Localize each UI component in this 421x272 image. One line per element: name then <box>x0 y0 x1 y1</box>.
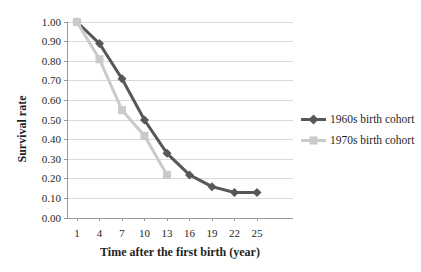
diamond-marker-icon <box>309 114 319 124</box>
series-line-0 <box>77 22 257 193</box>
y-tick-label: 0.90 <box>42 35 62 47</box>
legend-item-1970s-cohort: 1970s birth cohort <box>300 133 414 147</box>
legend-item-1960s-cohort: 1960s birth cohort <box>300 112 414 126</box>
square-marker-icon <box>310 136 318 144</box>
y-tick-label: 0.30 <box>42 153 62 165</box>
y-tick-label: 1.00 <box>42 16 62 28</box>
y-tick-label: 0.40 <box>42 133 62 145</box>
diamond-marker-icon <box>253 188 262 197</box>
legend-marker-1960s-diamond <box>300 113 327 126</box>
square-marker-icon <box>96 55 104 63</box>
x-tick-label: 1 <box>74 227 80 239</box>
y-tick-label: 0.10 <box>42 192 62 204</box>
x-tick-label: 13 <box>162 227 174 239</box>
square-marker-icon <box>163 171 171 179</box>
square-marker-icon <box>73 18 81 26</box>
y-tick-label: 0.70 <box>42 74 62 86</box>
legend-label-1970s: 1970s birth cohort <box>330 134 414 146</box>
y-tick-label: 0.50 <box>42 114 62 126</box>
x-tick-label: 7 <box>119 227 125 239</box>
x-tick-label: 4 <box>97 227 103 239</box>
y-tick-label: 0.00 <box>42 212 62 224</box>
y-tick-label: 0.20 <box>42 172 62 184</box>
x-tick-label: 22 <box>229 227 240 239</box>
series-line-1 <box>77 22 167 175</box>
survival-rate-figure: 0.000.100.200.300.400.500.600.700.800.90… <box>0 0 421 272</box>
y-axis-title: Survival rate <box>15 79 31 179</box>
square-marker-icon <box>118 106 126 114</box>
x-tick-label: 19 <box>207 227 219 239</box>
y-tick-label: 0.60 <box>42 94 62 106</box>
x-tick-label: 16 <box>184 227 196 239</box>
x-tick-label: 25 <box>252 227 264 239</box>
legend-marker-1970s-square <box>300 134 327 147</box>
legend: 1960s birth cohort 1970s birth cohort <box>300 112 414 147</box>
x-tick-label: 10 <box>139 227 151 239</box>
square-marker-icon <box>141 132 149 140</box>
y-tick-label: 0.80 <box>42 55 62 67</box>
x-axis-title: Time after the first birth (year) <box>67 245 293 260</box>
diamond-marker-icon <box>230 188 239 197</box>
legend-label-1960s: 1960s birth cohort <box>330 113 414 125</box>
